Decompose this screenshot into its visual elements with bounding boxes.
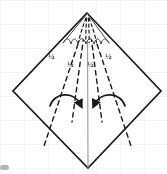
quarter-label-left-outer: ¼ xyxy=(48,52,55,61)
origami-fold-figure: ¼ ¼ ¼ ¼ xyxy=(0,0,167,174)
corner-smudge xyxy=(0,165,9,170)
quarter-label-left-inner: ¼ xyxy=(67,60,74,69)
quarter-label-right-outer: ¼ xyxy=(105,52,112,61)
fold-diagram-canvas xyxy=(0,0,167,174)
quarter-label-right-inner: ¼ xyxy=(87,60,94,69)
